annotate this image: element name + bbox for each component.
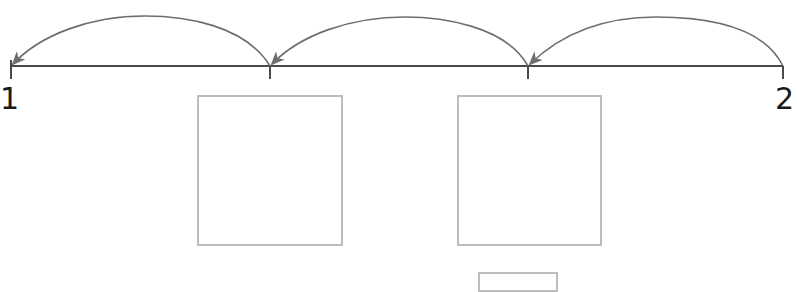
end-label: 2 [775, 84, 794, 114]
jump-arrow-3-to-2 [530, 17, 783, 66]
jump-arrow-1-to-0 [13, 16, 270, 66]
answer-box-1[interactable] [197, 95, 343, 246]
start-label: 1 [0, 84, 19, 114]
answer-box-3[interactable] [478, 272, 558, 292]
jump-arrow-2-to-1 [272, 17, 528, 66]
answer-box-2[interactable] [457, 95, 602, 246]
